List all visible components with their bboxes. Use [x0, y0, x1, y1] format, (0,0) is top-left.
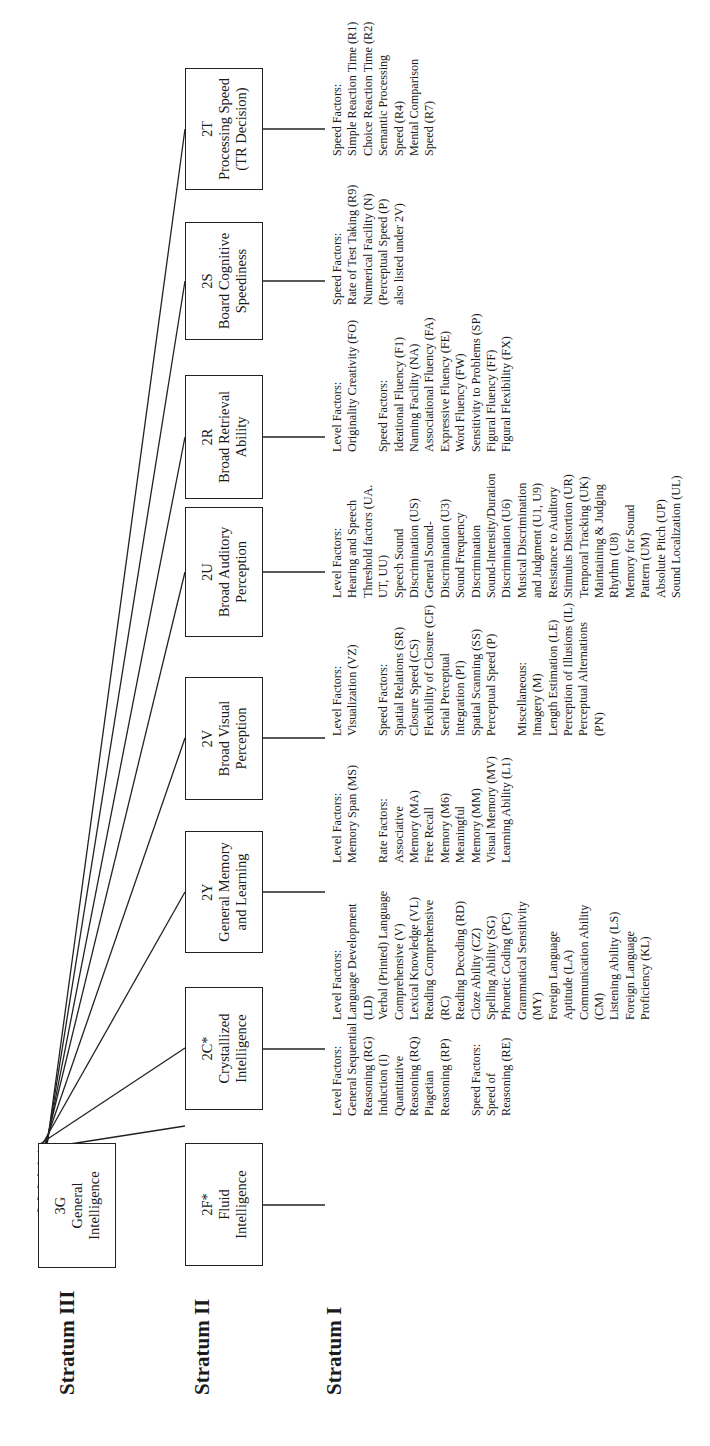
factor-item: Free Recall — [422, 756, 437, 863]
box-title-line: Intelligence — [233, 1170, 250, 1238]
factor-item: Aptitude (LA) — [561, 891, 576, 1020]
factor-group: Rate Factors:AssociativeMemory (MA)Free … — [376, 756, 515, 863]
factor-item: (RC) — [438, 891, 453, 1020]
factor-group-heading: Speed Factors: — [330, 185, 345, 305]
factor-item: Discrimination — [469, 473, 484, 598]
factor-group: Level Factors:Originality Creativity (FO… — [330, 314, 361, 452]
broad-auditory-perception-box: 2U Broad Auditory Perception — [185, 507, 263, 637]
factor-item: (Perceptual Speed (P) — [376, 185, 391, 305]
box-code: 2U — [199, 563, 216, 581]
factor-item: General Sequential — [345, 1023, 360, 1116]
processing-factor-list: Speed Factors:Simple Reaction Time (R1)C… — [330, 22, 453, 156]
box-title-line: Crystallized — [216, 1013, 233, 1083]
factor-item: Visual Memory (MV) — [484, 756, 499, 863]
box-code: 2R — [199, 429, 216, 446]
factor-item: General Sound- — [422, 473, 437, 598]
fluid-factor-list: Level Factors:General SequentialReasonin… — [330, 1023, 530, 1116]
factor-item: Listening Ability (LS) — [607, 891, 622, 1020]
factor-item: Memory (MM) — [469, 756, 484, 863]
factor-item: Perception of Illusions (IL) — [561, 603, 576, 736]
factor-group-heading: Level Factors: — [330, 314, 345, 452]
stratum-3-label: Stratum III — [55, 1291, 80, 1395]
box-title-line: Broad Retrieval — [216, 391, 233, 483]
factor-item: Integration (PI) — [453, 603, 468, 736]
factor-item: Musical Discrimination — [515, 473, 530, 598]
visual-factor-list: Level Factors:Visualization (VZ)Speed Fa… — [330, 603, 623, 736]
factor-item: Originality Creativity (FO) — [345, 314, 360, 452]
memory-factor-list: Level Factors:Memory Span (MS)Rate Facto… — [330, 756, 530, 863]
factor-item: Language Development — [345, 891, 360, 1020]
factor-item: Reading Decoding (RD) — [453, 891, 468, 1020]
box-title-line: General Memory — [216, 842, 233, 941]
box-title-line: Ability — [233, 416, 250, 457]
factor-group-heading: Speed Factors: — [376, 314, 391, 452]
factor-item: Hearing and Speech — [345, 473, 360, 598]
factor-item: Visualization (VZ) — [345, 603, 360, 736]
factor-item: Imagery (M) — [530, 603, 545, 736]
factor-item: Spatial Scanning (SS) — [469, 603, 484, 736]
factor-item: Discrimination (US) — [407, 473, 422, 598]
factor-item: Flexibility of Closure (CF) — [422, 603, 437, 736]
factor-item: Foreign Language — [546, 891, 561, 1020]
factor-item: Memory Span (MS) — [345, 756, 360, 863]
general-line1: General — [69, 1183, 86, 1229]
factor-item: Speed (R4) — [392, 22, 407, 156]
factor-item: UT, UU) — [376, 473, 391, 598]
factor-item: Speed (R7) — [422, 22, 437, 156]
factor-item: Speech Sound — [392, 473, 407, 598]
factor-group: Speed Factors:Rate of Test Taking (R9)Nu… — [330, 185, 407, 305]
factor-item: Naming Facility (NA) — [407, 314, 422, 452]
factor-item: Spatial Relations (SR) — [392, 603, 407, 736]
factor-item: Reasoning (RQ) — [407, 1023, 422, 1116]
factor-item: Serial Perceptual — [438, 603, 453, 736]
factor-item: Closure Speed (CS) — [407, 603, 422, 736]
broad-cognitive-speediness-box: 2S Board Cognitive Speediness — [185, 222, 263, 340]
factor-item: and Judgment (U1, U9) — [530, 473, 545, 598]
factor-item: Sound Frequency — [453, 473, 468, 598]
processing-speed-box: 2T Processing Speed (TR Decision) — [185, 68, 263, 190]
broad-visual-perception-box: 2V Broad Visual Perception — [185, 677, 263, 800]
factor-item: Length Estimation (LE) — [546, 603, 561, 736]
factor-item: Figural Fluency (FF) — [484, 314, 499, 452]
box-title-line: Speediness — [233, 249, 250, 313]
factor-item: Associative — [392, 756, 407, 863]
factor-item: also listed under 2V) — [392, 185, 407, 305]
factor-item: Spelling Ability (SG) — [484, 891, 499, 1020]
factor-item: Mental Comparison — [407, 22, 422, 156]
box-title-line: Perception — [233, 708, 250, 770]
factor-item: Semantic Processing — [376, 22, 391, 156]
factor-group: Speed Factors:Simple Reaction Time (R1)C… — [330, 22, 438, 156]
factor-item: Threshold factors (UA. — [361, 473, 376, 598]
box-title-line: Broad Auditory — [216, 527, 233, 618]
factor-item: Associational Fluency (FA) — [422, 314, 437, 452]
factor-item: Meaningful — [453, 756, 468, 863]
factor-item: Memory (MA) — [407, 756, 422, 863]
factor-item: Discrimination (U3) — [438, 473, 453, 598]
factor-item: Rate of Test Taking (R9) — [345, 185, 360, 305]
factor-item: Absolute Pitch (UP) — [654, 473, 669, 598]
factor-group: Level Factors:Hearing and SpeechThreshol… — [330, 473, 684, 598]
factor-item: Lexical Knowledge (VL) — [407, 891, 422, 1020]
factor-item: Reading Comprehensive — [422, 891, 437, 1020]
factor-group: Level Factors:General SequentialReasonin… — [330, 1023, 453, 1116]
fluid-intelligence-box: 2F* Fluid Intelligence — [185, 1143, 263, 1266]
speediness-factor-list: Speed Factors:Rate of Test Taking (R9)Nu… — [330, 185, 422, 305]
factor-item: (PN) — [592, 603, 607, 736]
crystallized-intelligence-box: 2C* Crystallized Intelligence — [185, 987, 263, 1110]
factor-group-heading: Speed Factors: — [376, 603, 391, 736]
factor-item: Expressive Fluency (FE) — [438, 314, 453, 452]
general-memory-learning-box: 2Y General Memory and Learning — [185, 831, 263, 953]
factor-item: Sensitivity to Problems (SP) — [469, 314, 484, 452]
factor-group-heading: Rate Factors: — [376, 756, 391, 863]
factor-group-heading: Speed Factors: — [469, 1023, 484, 1116]
factor-item: Reasoning (RG) — [361, 1023, 376, 1116]
factor-item: Word Fluency (FW) — [453, 314, 468, 452]
factor-item: Ideational Fluency (F1) — [392, 314, 407, 452]
factor-item: Reasoning (RE) — [499, 1023, 514, 1116]
factor-item: (CM) — [592, 891, 607, 1020]
factor-item: Memory for Sound — [623, 473, 638, 598]
factor-item: Rhythm (U8) — [607, 473, 622, 598]
factor-group: Level Factors:Language Development(LD)Ve… — [330, 891, 654, 1020]
stratum-2-label: Stratum II — [190, 1299, 215, 1395]
factor-item: Maintaining & Judging — [592, 473, 607, 598]
